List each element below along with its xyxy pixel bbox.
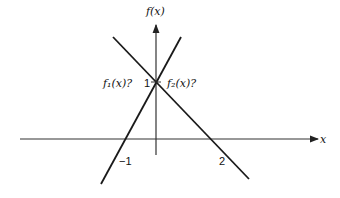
f1-label: f₁(x)? [102,77,132,90]
intercept-label: 1 [144,77,150,89]
f2-root-label: 2 [219,155,225,167]
f1-root-label: −1 [119,155,132,167]
x-axis-label: x [320,133,327,146]
line-f1 [101,37,181,184]
line-f2 [113,37,249,179]
f2-label: f₂(x)? [166,77,196,90]
function-diagram: f(x) x f₁(x)? 1 f₂(x)? −1 2 [0,0,340,198]
y-axis-label: f(x) [145,5,165,18]
